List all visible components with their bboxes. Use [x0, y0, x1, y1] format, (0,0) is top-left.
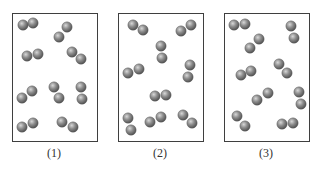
atom-sphere — [294, 87, 304, 97]
atom-sphere — [134, 64, 144, 74]
atom-sphere — [229, 20, 239, 30]
atom-sphere — [62, 22, 72, 32]
atom-sphere — [76, 82, 86, 92]
atom-sphere — [123, 68, 133, 78]
atom-sphere — [33, 49, 43, 59]
diatomic-molecule — [232, 111, 250, 131]
atom-sphere — [28, 18, 38, 28]
diatomic-molecule — [156, 41, 167, 63]
diatomic-molecule — [49, 82, 64, 103]
diatomic-molecule — [76, 82, 87, 104]
diatomic-molecule — [17, 118, 38, 132]
atom-sphere — [156, 41, 166, 51]
panel-2-molecules — [123, 20, 197, 135]
atom-sphere — [240, 19, 250, 29]
diatomic-molecule — [57, 117, 78, 132]
panel-2-label: (2) — [140, 146, 180, 160]
atom-sphere — [68, 122, 78, 132]
diatomic-molecule — [183, 60, 195, 82]
atom-sphere — [27, 86, 37, 96]
diatomic-molecule — [54, 22, 72, 42]
diatomic-molecule — [123, 113, 136, 135]
diatomic-molecule — [18, 18, 38, 30]
atom-sphere — [236, 70, 246, 80]
atom-sphere — [186, 20, 196, 30]
atom-sphere — [150, 91, 160, 101]
atom-sphere — [76, 54, 86, 64]
atom-sphere — [54, 93, 64, 103]
atom-sphere — [22, 51, 32, 61]
diatomic-molecule — [245, 34, 264, 53]
atom-sphere — [252, 95, 262, 105]
diatomic-molecule-figure: (1) (2) (3) — [0, 0, 311, 175]
atom-sphere — [289, 33, 299, 43]
atom-sphere — [277, 119, 287, 129]
diatomic-molecule — [17, 86, 37, 103]
atom-sphere — [263, 88, 273, 98]
atom-sphere — [246, 66, 256, 76]
atom-sphere — [145, 117, 155, 127]
atom-sphere — [156, 112, 166, 122]
atom-sphere — [77, 94, 87, 104]
diatomic-molecule — [123, 64, 144, 78]
diatomic-molecule — [128, 20, 148, 35]
atom-sphere — [296, 99, 306, 109]
atom-sphere — [17, 93, 27, 103]
diatomic-molecule — [229, 19, 250, 30]
diatomic-molecule — [277, 118, 298, 129]
atom-sphere — [157, 53, 167, 63]
atom-sphere — [282, 68, 292, 78]
atom-sphere — [288, 118, 298, 128]
atom-sphere — [49, 82, 59, 92]
diatomic-molecule — [22, 49, 43, 61]
atom-sphere — [245, 43, 255, 53]
diatomic-molecule — [252, 88, 273, 105]
atom-sphere — [178, 110, 188, 120]
atom-sphere — [54, 32, 64, 42]
atom-sphere — [274, 59, 284, 69]
atom-sphere — [67, 47, 77, 57]
atom-sphere — [57, 117, 67, 127]
diatomic-molecule — [236, 66, 256, 80]
atom-sphere — [185, 60, 195, 70]
atom-sphere — [123, 113, 133, 123]
diatomic-molecule — [176, 20, 196, 36]
atom-sphere — [286, 21, 296, 31]
atom-sphere — [138, 25, 148, 35]
atom-sphere — [187, 118, 197, 128]
diatomic-molecule — [286, 21, 299, 43]
panel-1-label: (1) — [34, 146, 74, 160]
atom-sphere — [232, 111, 242, 121]
diatomic-molecule — [150, 90, 171, 101]
panel-3-molecules — [229, 19, 306, 131]
atom-sphere — [161, 90, 171, 100]
atom-sphere — [18, 20, 28, 30]
atom-sphere — [28, 118, 38, 128]
atom-sphere — [128, 20, 138, 30]
panel-3-label: (3) — [246, 146, 286, 160]
panel-1-molecules — [17, 18, 87, 132]
atom-sphere — [126, 125, 136, 135]
atom-sphere — [254, 34, 264, 44]
diatomic-molecule — [67, 47, 86, 64]
atom-sphere — [176, 26, 186, 36]
diatomic-molecule — [294, 87, 306, 109]
diatomic-molecule — [274, 59, 292, 78]
atom-sphere — [183, 72, 193, 82]
atom-sphere — [240, 121, 250, 131]
diatomic-molecule — [145, 112, 166, 127]
diatomic-molecule — [178, 110, 197, 128]
atom-sphere — [17, 122, 27, 132]
